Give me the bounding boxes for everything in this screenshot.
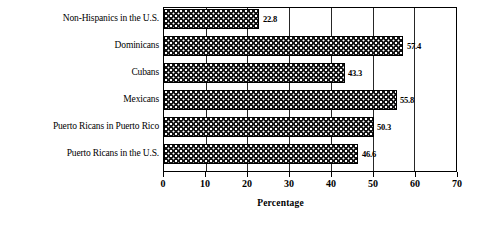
- category-label-text: Puerto Ricans in the U.S.: [67, 148, 159, 158]
- bar-value-0: 22.8: [263, 14, 277, 24]
- plot-area: 22.8 57.4 43.3 55.8 50.3 46.6: [163, 7, 457, 172]
- bar-1: [164, 36, 403, 56]
- category-label-text: Non-Hispanics in the U.S.: [63, 13, 159, 23]
- category-label-3: Mexicans: [0, 89, 159, 109]
- bar-value-4: 50.3: [377, 122, 391, 132]
- category-label-0: Non-Hispanics in the U.S.: [0, 8, 159, 28]
- tick-mark: [163, 172, 164, 177]
- bar-2: [164, 63, 345, 83]
- category-label-4: Puerto Ricans in Puerto Rico: [0, 116, 159, 136]
- bar-value-3: 55.8: [400, 95, 414, 105]
- x-tick-label-4: 40: [326, 178, 336, 189]
- bar-0: [164, 9, 259, 29]
- bar-5: [164, 144, 358, 164]
- tick-mark: [247, 172, 248, 177]
- category-label-text: Mexicans: [123, 94, 159, 104]
- bar-3: [164, 90, 397, 110]
- tick-mark: [331, 172, 332, 177]
- gridline-60: [414, 8, 415, 171]
- x-tick-label-2: 20: [242, 178, 252, 189]
- tick-mark: [373, 172, 374, 177]
- tick-mark: [289, 172, 290, 177]
- category-label-5: Puerto Ricans in the U.S.: [0, 143, 159, 163]
- x-axis-title-text: Percentage: [179, 198, 304, 208]
- tick-mark: [205, 172, 206, 177]
- category-label-text: Puerto Ricans in Puerto Rico: [53, 121, 159, 131]
- bar-4: [164, 117, 374, 137]
- x-tick-label-0: 0: [161, 178, 166, 189]
- bar-value-5: 46.6: [362, 149, 376, 159]
- x-tick-label-6: 60: [410, 178, 420, 189]
- x-tick-label-1: 10: [200, 178, 210, 189]
- bar-value-2: 43.3: [348, 68, 362, 78]
- tick-mark: [457, 172, 458, 177]
- category-label-1: Dominicans: [0, 35, 159, 55]
- x-tick-label-7: 70: [452, 178, 462, 189]
- category-label-2: Cubans: [0, 62, 159, 82]
- x-tick-label-3: 30: [284, 178, 294, 189]
- x-tick-label-5: 50: [368, 178, 378, 189]
- x-axis-title: Percentage: [0, 198, 483, 208]
- tick-mark: [415, 172, 416, 177]
- category-label-text: Dominicans: [115, 40, 159, 50]
- bar-chart: Non-Hispanics in the U.S. Dominicans Cub…: [0, 0, 483, 234]
- bar-value-1: 57.4: [407, 41, 421, 51]
- category-label-text: Cubans: [131, 67, 159, 77]
